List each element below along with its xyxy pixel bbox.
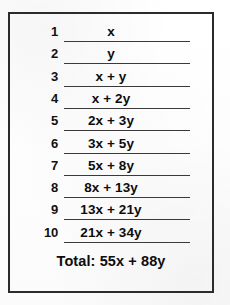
row-expression: x + 2y	[8, 91, 214, 106]
row-expression: 8x + 13y	[8, 180, 214, 195]
row-expression: x	[8, 24, 214, 39]
table-row: 5 2x + 3y	[8, 111, 214, 133]
table-row: 6 3x + 5y	[8, 134, 214, 156]
table-row: 8 8x + 13y	[8, 178, 214, 200]
table-row: 4 x + 2y	[8, 89, 214, 111]
row-expression: 5x + 8y	[8, 158, 214, 173]
row-expression: 13x + 21y	[8, 202, 214, 217]
table-row: 3 x + y	[8, 67, 214, 89]
table-row: 10 21x + 34y	[8, 223, 214, 245]
row-expression: 21x + 34y	[8, 225, 214, 240]
table-row: 9 13x + 21y	[8, 200, 214, 222]
table-row: 1 x	[8, 22, 214, 44]
row-expression: x + y	[8, 69, 214, 84]
worksheet-row-list: 1 x 2 y 3 x + y 4 x + 2y 5 2x + 3y 6	[8, 12, 214, 293]
table-row: 7 5x + 8y	[8, 156, 214, 178]
row-expression: 2x + 3y	[8, 113, 214, 128]
worksheet-sheet: 1 x 2 y 3 x + y 4 x + 2y 5 2x + 3y 6	[0, 0, 230, 305]
total-row: Total: 55x + 88y	[8, 252, 214, 274]
row-expression: y	[8, 46, 214, 61]
total-label: Total: 55x + 88y	[57, 253, 166, 269]
row-expression: 3x + 5y	[8, 136, 214, 151]
table-row: 2 y	[8, 44, 214, 66]
